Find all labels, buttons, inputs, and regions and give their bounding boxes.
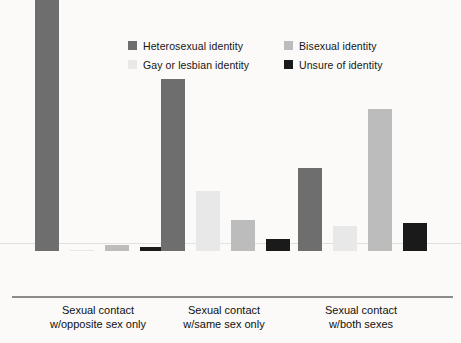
bar[interactable]: 21.7% [196,191,220,251]
category-label: Sexual contactw/both sexes [271,303,451,331]
category-label-line: Sexual contact [271,303,451,317]
legend-swatch-icon [284,60,293,69]
legend-label: Unsure of identity [299,59,383,71]
bar[interactable]: 50.9% [368,109,392,251]
grouped-bar-chart: 96.3%0.4%2.0%1.4%61.7%21.7%11.3%4.4%29.8… [0,0,461,343]
legend-label: Gay or lesbian identity [143,59,249,71]
legend-label: Bisexual identity [299,40,377,52]
category-label-line: w/both sexes [271,317,451,331]
legend-label: Heterosexual identity [143,40,243,52]
legend-swatch-icon [128,60,137,69]
bar[interactable]: 2.0% [105,245,129,251]
bar-slot: 0.4% [67,0,97,251]
bar-slot: 96.3% [32,0,62,251]
bar[interactable]: 29.8% [298,168,322,251]
legend-item[interactable]: Heterosexual identity [128,40,284,52]
legend-item[interactable]: Bisexual identity [284,40,444,52]
legend-swatch-icon [128,41,137,50]
bar[interactable]: 10.1% [403,223,427,251]
legend-swatch-icon [284,41,293,50]
bar[interactable]: 0.4% [70,250,94,251]
axis-baseline [12,296,453,298]
legend-item[interactable]: Unsure of identity [284,59,444,71]
bar[interactable]: 61.7% [161,79,185,251]
bar[interactable]: 11.3% [231,220,255,251]
chart-legend: Heterosexual identityBisexual identityGa… [128,36,448,74]
bar[interactable]: 9.1% [333,226,357,251]
legend-item[interactable]: Gay or lesbian identity [128,59,284,71]
bar[interactable]: 96.3% [35,0,59,251]
bar[interactable]: 4.4% [266,239,290,251]
